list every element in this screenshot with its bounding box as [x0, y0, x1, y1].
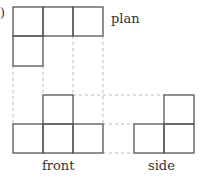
side-view [134, 95, 194, 153]
projection-lines [13, 36, 164, 153]
plan-view [13, 7, 103, 66]
paren-mark: ) [0, 6, 5, 19]
side-label: side [148, 159, 175, 172]
front-label: front [42, 159, 74, 172]
front-view [13, 95, 103, 153]
plan-label: plan [111, 12, 140, 25]
